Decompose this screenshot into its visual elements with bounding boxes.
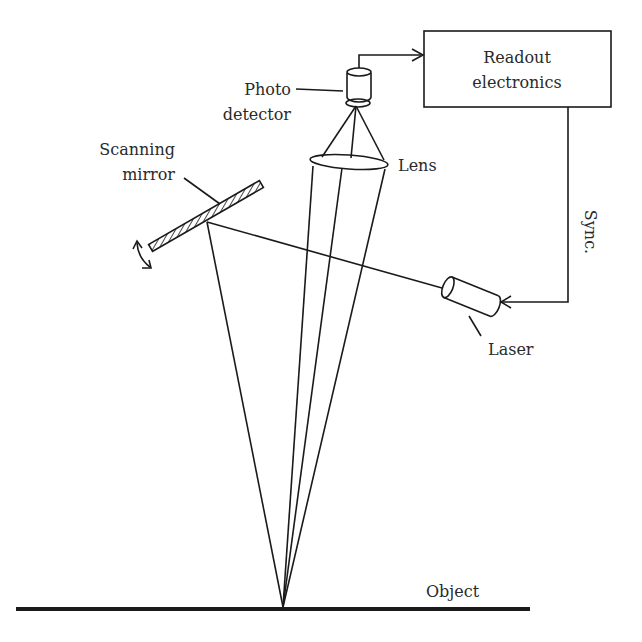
readout-electronics-box: Readout electronics xyxy=(424,31,611,107)
photo-label-line1: Photo xyxy=(244,80,291,99)
lens-label: Lens xyxy=(398,156,437,175)
photo-label-line2: detector xyxy=(223,105,292,124)
scanning-label-line1: Scanning xyxy=(99,140,175,159)
collected-light-rays xyxy=(283,166,385,607)
diagram-canvas: Readout electronics Sync. Photo detector… xyxy=(0,0,642,642)
scanning-mirror-leader xyxy=(184,178,220,204)
scanning-mirror: Scanning mirror xyxy=(99,140,263,268)
focused-light-rays xyxy=(322,106,384,160)
lens: Lens xyxy=(310,152,437,175)
laser-label: Laser xyxy=(488,340,534,359)
scanning-label-line2: mirror xyxy=(122,165,175,184)
sync-connection-arrow: Sync. xyxy=(501,107,600,308)
photo-detector-leader xyxy=(296,89,343,91)
sync-label: Sync. xyxy=(581,210,600,254)
laser: Laser xyxy=(439,275,534,359)
detector-to-readout-arrow xyxy=(359,49,423,68)
readout-label-line2: electronics xyxy=(472,73,561,92)
laser-leader xyxy=(469,316,481,336)
readout-label-line1: Readout xyxy=(483,48,551,67)
object-label: Object xyxy=(426,582,480,601)
laser-beam xyxy=(207,222,442,607)
object-surface: Object xyxy=(16,582,530,609)
